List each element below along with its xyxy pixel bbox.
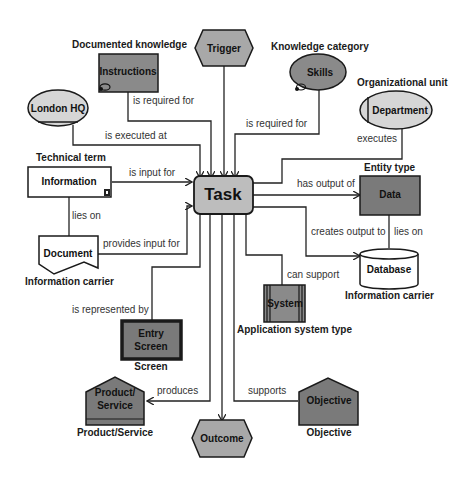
node-label-line1: Product/ <box>95 387 136 398</box>
node-label-line2: Service <box>97 400 133 411</box>
edge-label-product: produces <box>157 385 198 396</box>
caption-information: Technical term <box>36 152 106 163</box>
edge-label-system: can support <box>287 269 339 280</box>
node-label: London HQ <box>31 103 86 114</box>
edge-label-skills: is required for <box>246 118 308 129</box>
edge-label-instructions: is required for <box>133 95 195 106</box>
node-label: Outcome <box>200 433 244 444</box>
node-department[interactable]: Department <box>360 91 432 129</box>
edge-label-entry: is represented by <box>72 304 149 315</box>
node-data[interactable]: Data <box>360 176 420 215</box>
edge-label-document: provides input for <box>103 238 180 249</box>
node-outcome[interactable]: Outcome <box>192 420 252 457</box>
node-label-line1: Entry <box>138 328 164 339</box>
edge-label-database: creates output to <box>311 226 386 237</box>
caption-entry: Screen <box>134 361 167 372</box>
node-london-hq[interactable]: London HQ <box>28 90 88 126</box>
rectangle-shape <box>122 321 181 359</box>
edge-label-data-database: lies on <box>394 226 423 237</box>
edge-skills-task <box>235 90 319 178</box>
node-instructions[interactable]: Instructions <box>99 54 158 92</box>
node-document[interactable]: Document <box>39 236 98 274</box>
caption-skills: Knowledge category <box>271 41 369 52</box>
node-label: Objective <box>306 395 351 406</box>
node-label: Department <box>372 105 428 116</box>
task-label: Task <box>204 185 242 204</box>
node-database[interactable]: Database <box>360 249 418 289</box>
node-information[interactable]: Information <box>28 167 111 197</box>
cylinder-top <box>360 249 418 259</box>
node-label: Document <box>44 248 94 259</box>
caption-document: Information carrier <box>25 276 114 287</box>
edge-label-info-document: lies on <box>72 210 101 221</box>
edge-label-information: is input for <box>129 167 176 178</box>
node-label: Database <box>367 264 412 275</box>
edge-label-objective: supports <box>248 385 286 396</box>
caption-database: Information carrier <box>345 290 434 301</box>
term-icon <box>104 189 110 196</box>
node-label: System <box>267 298 303 309</box>
node-label: Trigger <box>207 43 241 54</box>
caption-data: Entity type <box>364 162 416 173</box>
node-label: Skills <box>307 67 334 78</box>
edge-label-london: is executed at <box>105 130 167 141</box>
node-label: Instructions <box>99 66 157 77</box>
caption-system: Application system type <box>237 324 352 335</box>
edge-label-data: has output of <box>297 178 355 189</box>
edge-entry-task <box>152 214 200 320</box>
task-diagram: is required for is required for is execu… <box>0 0 473 486</box>
edge-system-task <box>246 214 282 285</box>
node-entry-screen[interactable]: Entry Screen <box>122 321 181 359</box>
node-product-service[interactable]: Product/ Service <box>86 377 144 425</box>
caption-instructions: Documented knowledge <box>72 39 187 50</box>
node-label-line2: Screen <box>134 341 167 352</box>
edge-label-department: executes <box>357 133 397 144</box>
node-task[interactable]: Task <box>194 176 253 214</box>
node-objective[interactable]: Objective <box>299 378 358 425</box>
node-trigger[interactable]: Trigger <box>195 30 253 66</box>
node-label: Information <box>42 176 97 187</box>
caption-product: Product/Service <box>77 427 154 438</box>
caption-department: Organizational unit <box>357 77 448 88</box>
node-skills[interactable]: Skills <box>290 54 346 91</box>
caption-objective: Objective <box>306 427 351 438</box>
node-label: Data <box>379 189 401 200</box>
node-system[interactable]: System <box>264 285 305 322</box>
